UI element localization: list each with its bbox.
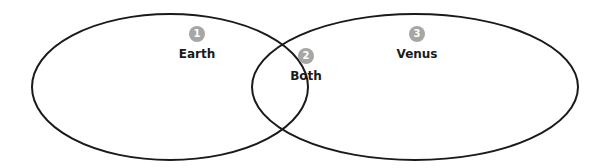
region-1-badge: 1 — [189, 26, 205, 42]
region-earth-label: Earth — [179, 47, 216, 61]
region-both-label: Both — [290, 69, 322, 83]
venn-diagram — [0, 0, 610, 168]
earth-ellipse — [32, 14, 308, 160]
region-2-badge: 2 — [298, 48, 314, 64]
region-3-badge: 3 — [409, 26, 425, 42]
region-venus-label: Venus — [397, 47, 438, 61]
